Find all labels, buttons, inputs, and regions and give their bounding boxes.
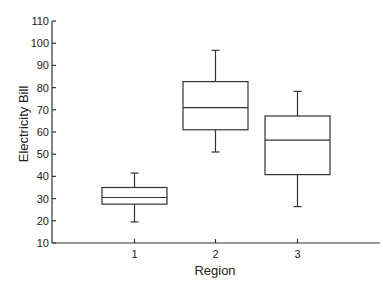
- y-tick-label: 20: [37, 215, 49, 227]
- y-tick-label: 10: [37, 237, 49, 249]
- box-region-2: [183, 50, 248, 152]
- y-axis-title: Electricity Bill: [16, 86, 31, 163]
- y-tick-label: 70: [37, 104, 49, 116]
- boxes: [102, 50, 330, 222]
- y-tick-label: 110: [31, 15, 49, 27]
- box-region-1: [102, 173, 167, 222]
- iqr-box: [102, 188, 167, 205]
- box-plot-chart: 102030405060708090100110 123 Region Elec…: [0, 0, 383, 293]
- iqr-box: [183, 82, 248, 130]
- y-tick-label: 100: [31, 37, 49, 49]
- y-tick-label: 40: [37, 170, 49, 182]
- y-tick-label: 90: [37, 59, 49, 71]
- x-tick-label: 2: [212, 248, 218, 260]
- x-axis: 123: [52, 239, 380, 260]
- y-tick-label: 30: [37, 193, 49, 205]
- x-tick-label: 3: [294, 248, 300, 260]
- iqr-box: [265, 116, 330, 175]
- y-tick-label: 50: [37, 148, 49, 160]
- box-region-3: [265, 91, 330, 206]
- x-tick-label: 1: [131, 248, 137, 260]
- y-tick-label: 80: [37, 82, 49, 94]
- x-axis-title: Region: [194, 263, 235, 278]
- y-tick-label: 60: [37, 126, 49, 138]
- y-axis: 102030405060708090100110: [31, 15, 56, 249]
